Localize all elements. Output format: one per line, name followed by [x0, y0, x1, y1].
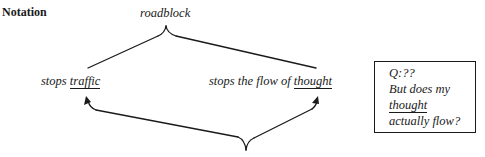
question-thought-underlined: thought: [389, 98, 427, 113]
question-line-actually-flow: actually flow?: [389, 114, 460, 128]
question-line-q: Q:??: [389, 66, 415, 80]
question-box: Q:?? But does my thought actually flow?: [374, 61, 476, 133]
question-line-thought: thought: [389, 98, 427, 112]
bottom-brace-arrows: [88, 101, 317, 150]
arrowhead-left-icon: [84, 96, 91, 105]
arrowhead-right-icon: [312, 96, 319, 104]
question-line-but-does-my: But does my: [389, 82, 450, 96]
top-brace: [88, 26, 316, 68]
